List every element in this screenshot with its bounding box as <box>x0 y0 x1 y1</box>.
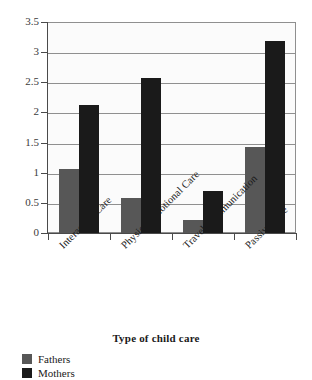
y-tick-label: 0.5 <box>0 197 39 208</box>
x-axis-title: Type of child care <box>0 332 312 344</box>
legend-swatch <box>22 354 32 364</box>
legend-label: Fathers <box>38 354 70 365</box>
x-separator-tick <box>234 233 235 240</box>
legend-item: Fathers <box>22 352 75 366</box>
y-tick-label: 1 <box>0 167 39 178</box>
y-tick <box>41 143 48 144</box>
x-separator-tick <box>110 233 111 240</box>
y-tick-label: 2.5 <box>0 76 39 87</box>
y-tick <box>41 173 48 174</box>
y-tick-label: 0 <box>0 227 39 238</box>
y-tick-label: 2 <box>0 106 39 117</box>
y-tick-label: 3.5 <box>0 16 39 27</box>
x-separator-tick <box>172 233 173 240</box>
y-tick-label: 1.5 <box>0 137 39 148</box>
x-separator-tick <box>48 233 49 240</box>
chart-legend: FathersMothers <box>22 352 75 380</box>
legend-swatch <box>22 368 32 378</box>
y-tick <box>41 22 48 23</box>
y-tick <box>41 112 48 113</box>
y-tick <box>41 82 48 83</box>
y-tick <box>41 203 48 204</box>
legend-label: Mothers <box>38 368 75 379</box>
y-tick-label: 3 <box>0 46 39 57</box>
legend-item: Mothers <box>22 366 75 380</box>
bar-chart-figure: 00.511.522.533.5 Interactive CarePhysica… <box>0 0 312 380</box>
x-separator-tick <box>296 233 297 240</box>
y-tick <box>41 52 48 53</box>
